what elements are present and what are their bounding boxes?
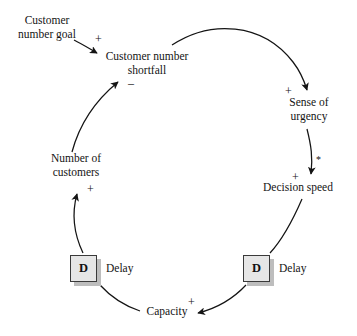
polarity-customers-to-shortfall: – <box>128 77 134 89</box>
delay-label-right: Delay <box>279 262 306 275</box>
node-capacity-line1: Capacity <box>139 305 195 319</box>
node-number-of-customers-line1: Number of <box>37 152 115 166</box>
delay-label-left: Delay <box>106 262 133 275</box>
link-delay-right-to-capacity <box>198 285 246 313</box>
node-sense-of-urgency-line1: Sense of <box>281 96 337 110</box>
causal-loop-diagram: Customer number goal Customer number sho… <box>0 0 357 336</box>
link-goal-to-shortfall <box>74 40 97 53</box>
node-number-of-customers: Number of customers <box>37 152 115 179</box>
node-customer-number-shortfall-line2: shortfall <box>101 64 193 78</box>
node-number-of-customers-line2: customers <box>37 166 115 180</box>
polarity-shortfall-to-urgency: + <box>285 85 292 97</box>
node-customer-number-goal-line2: number goal <box>6 28 88 42</box>
node-customer-number-goal: Customer number goal <box>6 14 88 41</box>
node-customer-number-goal-line1: Customer <box>6 14 88 28</box>
delay-box-left: D <box>70 255 97 282</box>
polarity-urgency-to-speed-sign: + <box>292 171 299 183</box>
link-urgency-to-speed <box>307 129 312 174</box>
polarity-goal-to-shortfall: + <box>95 33 102 45</box>
node-customer-number-shortfall-line1: Customer number <box>101 50 193 64</box>
link-customers-to-shortfall <box>72 82 118 152</box>
node-sense-of-urgency-line2: urgency <box>281 110 337 124</box>
polarity-customers-in: + <box>87 183 94 195</box>
link-delay-left-to-customers <box>74 194 83 253</box>
node-customer-number-shortfall: Customer number shortfall <box>101 50 193 77</box>
polarity-urgency-to-speed-mark: * <box>316 154 321 166</box>
node-capacity: Capacity <box>139 305 195 319</box>
link-speed-to-delay-right <box>270 199 302 253</box>
node-sense-of-urgency: Sense of urgency <box>281 96 337 123</box>
link-capacity-to-delay-left <box>100 285 140 311</box>
polarity-capacity-in: + <box>188 296 195 308</box>
delay-box-right: D <box>243 255 270 282</box>
